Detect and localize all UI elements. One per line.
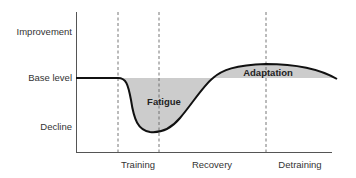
- y-label-base-level: Base level: [0, 72, 72, 83]
- x-label-training: Training: [121, 159, 155, 170]
- y-label-improvement: Improvement: [0, 26, 72, 37]
- region-label-fatigue: Fatigue: [147, 96, 181, 107]
- x-label-detraining: Detraining: [278, 159, 321, 170]
- region-label-adaptation: Adaptation: [243, 67, 293, 78]
- y-label-decline: Decline: [0, 121, 72, 132]
- x-label-recovery: Recovery: [192, 159, 232, 170]
